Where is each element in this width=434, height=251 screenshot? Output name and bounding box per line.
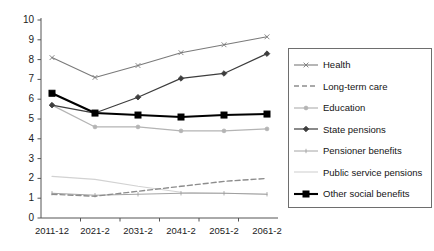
legend-item: Health [289,54,431,76]
y-tick-label: 6 [16,93,34,104]
x-tick-label: 2011-12 [29,225,75,236]
chart-figure: 012345678910 2011-122021-22031-22041-220… [0,0,434,251]
legend-item: Public service pensions [289,162,431,184]
legend-item: Other social benefits [289,183,431,205]
legend-swatch-public-service-pensions-icon [293,166,319,178]
chart-canvas [0,0,290,251]
y-tick-label: 3 [16,153,34,164]
legend-swatch-long-term-care-icon [293,80,319,92]
y-tick-label: 7 [16,73,34,84]
legend-label: Long-term care [323,81,387,92]
legend-label: Public service pensions [323,167,422,178]
legend-swatch-other-social-benefits-icon [293,188,319,200]
series-health [50,34,270,79]
plot-area: 012345678910 2011-122021-22031-22041-220… [0,0,290,251]
legend-item: Long-term care [289,76,431,98]
chart-legend: HealthLong-term careEducationState pensi… [288,48,432,208]
legend-label: Pensioner benefits [323,145,402,156]
y-tick-label: 4 [16,133,34,144]
legend-label: Other social benefits [323,188,410,199]
series-pensioner-benefits [52,191,267,197]
legend-label: Education [323,102,365,113]
legend-label: State pensions [323,124,386,135]
legend-label: Health [323,59,350,70]
y-tick-label: 1 [16,192,34,203]
x-tick-label: 2061-2 [244,225,290,236]
y-tick-label: 2 [16,172,34,183]
y-tick-label: 0 [16,212,34,223]
y-tick-label: 10 [16,14,34,25]
y-tick-label: 5 [16,113,34,124]
legend-item: Pensioner benefits [289,140,431,162]
x-tick-label: 2031-2 [115,225,161,236]
legend-swatch-pensioner-benefits-icon [293,145,319,157]
legend-swatch-state-pensions-icon [293,123,319,135]
legend-item: Education [289,97,431,119]
legend-swatch-education-icon [293,102,319,114]
legend-swatch-health-icon [293,59,319,71]
legend-item: State pensions [289,119,431,141]
series-other-social-benefits [49,90,270,120]
chart-axes [38,18,279,222]
series-public-service-pensions [52,176,267,194]
x-tick-label: 2041-2 [158,225,204,236]
y-tick-label: 8 [16,54,34,65]
x-tick-label: 2051-2 [201,225,247,236]
x-tick-label: 2021-2 [72,225,118,236]
y-tick-label: 9 [16,34,34,45]
